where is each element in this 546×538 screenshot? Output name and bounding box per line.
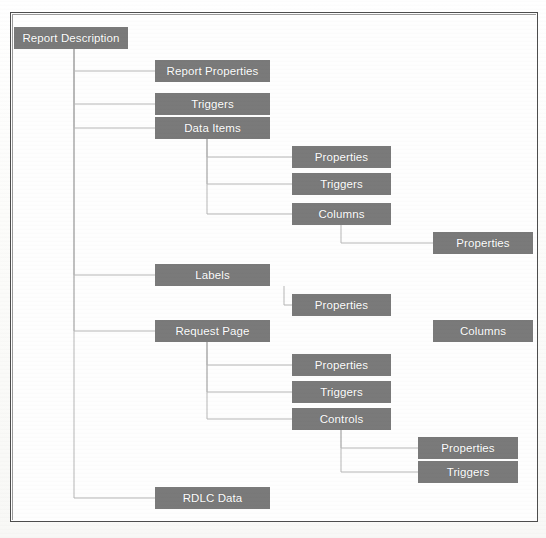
node-dataitem-properties[interactable]: Properties — [292, 146, 391, 168]
diagram-canvas: Report DescriptionReport PropertiesTrigg… — [0, 0, 546, 538]
node-column-properties[interactable]: Properties — [433, 232, 533, 254]
node-reqpage-triggers[interactable]: Triggers — [292, 381, 391, 403]
node-dataitem-columns[interactable]: Columns — [292, 203, 391, 225]
node-triggers-root[interactable]: Triggers — [155, 93, 270, 115]
node-data-items[interactable]: Data Items — [155, 117, 270, 139]
node-labels-properties[interactable]: Properties — [292, 294, 391, 316]
node-request-page[interactable]: Request Page — [155, 320, 270, 342]
node-control-properties[interactable]: Properties — [418, 437, 518, 459]
node-report-description[interactable]: Report Description — [14, 27, 128, 49]
node-control-triggers[interactable]: Triggers — [418, 461, 518, 483]
node-labels[interactable]: Labels — [155, 264, 270, 286]
node-report-properties[interactable]: Report Properties — [155, 60, 270, 82]
node-reqpage-properties[interactable]: Properties — [292, 354, 391, 376]
node-reqpage-controls[interactable]: Controls — [292, 408, 391, 430]
node-rdlc-data[interactable]: RDLC Data — [155, 487, 270, 509]
node-dataitem-triggers[interactable]: Triggers — [292, 173, 391, 195]
node-right-columns[interactable]: Columns — [433, 320, 533, 342]
